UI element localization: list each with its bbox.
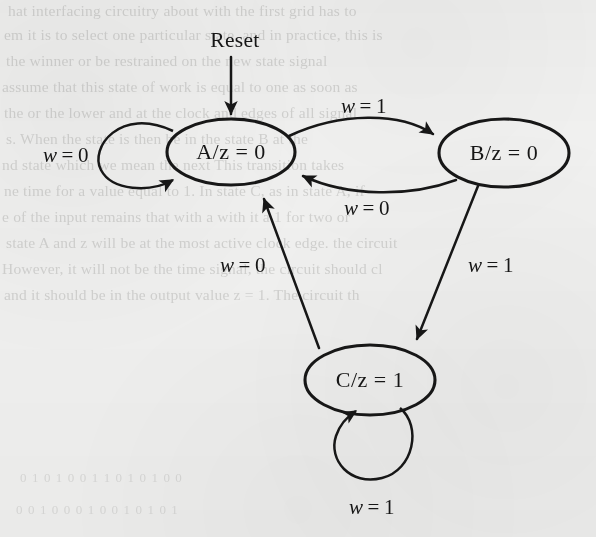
state-label-A: A/z = 0 [196,139,266,165]
input-variable: w [220,253,235,277]
reset-label: Reset [210,28,259,53]
input-variable: w [468,253,483,277]
input-variable: w [344,196,359,220]
transition-A-to-B [289,118,433,136]
transition-label-B-to-C: w=1 [468,253,514,278]
transition-C-to-A [264,199,319,348]
input-variable: w [341,94,356,118]
transition-label-C-to-A: w=0 [220,253,266,278]
transition-A-to-A [98,123,173,188]
equals-sign: = [356,94,376,118]
input-value: 1 [384,495,395,519]
equals-sign: = [359,196,379,220]
transition-label-A-to-A: w=0 [43,143,89,168]
equals-sign: = [364,495,384,519]
equals-sign: = [58,143,78,167]
state-label-C: C/z = 1 [336,367,404,393]
transition-label-C-to-C: w=1 [349,495,395,520]
state-label-B: B/z = 0 [470,140,538,166]
input-value: 0 [255,253,266,277]
transition-C-to-C [334,408,412,479]
scanned-page: hat interfacing circuitry about with the… [0,0,596,537]
transition-label-A-to-B: w=1 [341,94,387,119]
transition-B-to-A [303,176,456,192]
equals-sign: = [235,253,255,277]
input-value: 0 [379,196,390,220]
input-value: 1 [376,94,387,118]
input-variable: w [43,143,58,167]
input-value: 1 [503,253,514,277]
equals-sign: = [483,253,503,277]
input-variable: w [349,495,364,519]
input-value: 0 [78,143,89,167]
transition-label-B-to-A: w=0 [344,196,390,221]
